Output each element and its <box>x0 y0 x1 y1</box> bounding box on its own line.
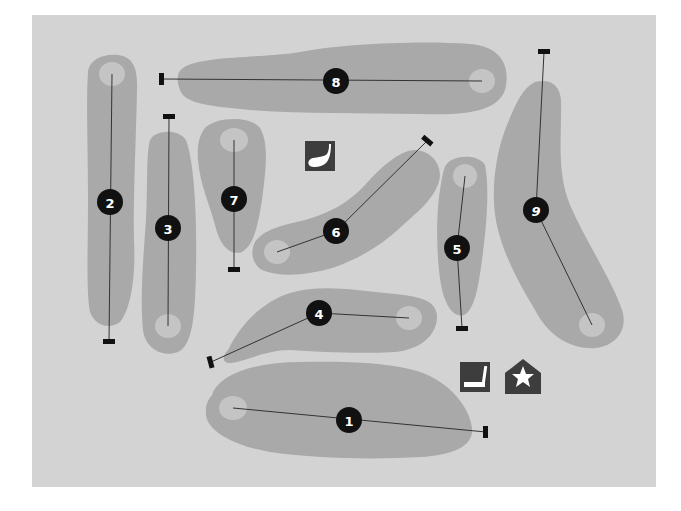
hole-badge-6[interactable]: 6 <box>323 218 349 244</box>
hole-number-7: 7 <box>229 193 238 208</box>
hole-badge-5[interactable]: 5 <box>444 235 470 261</box>
tee-marker-hole-8[interactable] <box>159 73 164 85</box>
hole-number-5: 5 <box>452 242 461 257</box>
tee-marker-hole-9[interactable] <box>538 49 550 54</box>
hole-number-4: 4 <box>314 307 323 322</box>
hole-number-3: 3 <box>163 222 172 237</box>
hole-badge-9[interactable]: 9 <box>523 197 549 223</box>
hole-badge-1[interactable]: 1 <box>336 407 362 433</box>
tee-marker-hole-2[interactable] <box>103 339 115 344</box>
tee-marker-hole-7[interactable] <box>228 267 240 272</box>
hole-number-8: 8 <box>331 75 340 90</box>
golf-course-map: 1 2 3 4 5 6 7 8 9 <box>0 0 681 511</box>
hole-number-2: 2 <box>105 196 114 211</box>
tee-marker-hole-1[interactable] <box>483 426 488 438</box>
tee-marker-hole-5[interactable] <box>456 326 468 331</box>
tee-marker-hole-3[interactable] <box>163 114 175 119</box>
driving-range-icon[interactable] <box>305 141 335 171</box>
hole-badge-8[interactable]: 8 <box>323 68 349 94</box>
hole-number-6: 6 <box>331 225 340 240</box>
hole-badge-4[interactable]: 4 <box>306 300 332 326</box>
hole-badge-3[interactable]: 3 <box>155 215 181 241</box>
hole-number-9: 9 <box>531 204 540 219</box>
hole-badge-2[interactable]: 2 <box>97 189 123 215</box>
putting-green-icon[interactable] <box>460 362 490 392</box>
hole-number-1: 1 <box>344 414 353 429</box>
hole-badge-7[interactable]: 7 <box>221 186 247 212</box>
